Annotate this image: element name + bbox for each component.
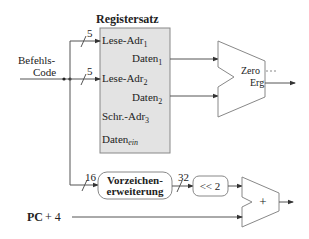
svg-text:erweiterung: erweiterung (107, 185, 164, 197)
register-file: Registersatz Lese-Adr1 Daten1 Lese-Adr2 … (96, 12, 170, 153)
svg-text:5: 5 (87, 65, 93, 77)
svg-text:5: 5 (87, 27, 93, 39)
alu-result-label: Erg (250, 77, 264, 88)
junction-dot (62, 77, 65, 80)
datapath-diagram: Registersatz Lese-Adr1 Daten1 Lese-Adr2 … (0, 0, 309, 239)
alu-zero-label: Zero (241, 65, 260, 76)
svg-text:+: + (259, 194, 266, 209)
sign-extend-unit: Vorzeichen- erweiterung (98, 172, 172, 199)
svg-text:16: 16 (85, 171, 97, 183)
svg-text:32: 32 (178, 171, 189, 183)
adder: + (242, 177, 293, 227)
instruction-label-1: Befehls- (18, 54, 56, 66)
svg-text:<< 2: << 2 (200, 180, 221, 192)
shift-left-2: << 2 (193, 176, 228, 196)
alu: Zero Erg (218, 41, 295, 117)
instruction-label-2: Code (33, 66, 56, 78)
svg-text:PC+ 4: PC+ 4 (27, 210, 61, 224)
instruction-input: Befehls- Code 5 5 16 (18, 27, 100, 191)
register-file-title: Registersatz (96, 12, 159, 26)
pc-plus-4: PC+ 4 (27, 210, 242, 224)
